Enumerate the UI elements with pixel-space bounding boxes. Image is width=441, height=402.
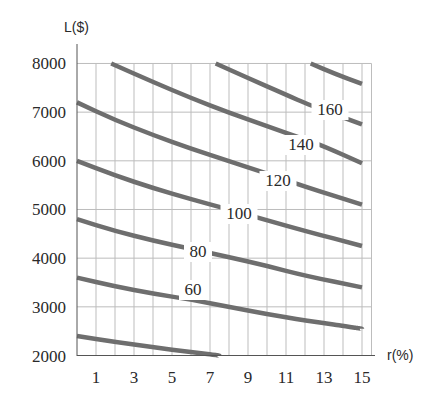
y-axis-ticks: 2000300040005000600070008000	[32, 54, 66, 365]
x-tick-label: 15	[354, 368, 371, 387]
curve-180	[311, 63, 362, 83]
x-tick-label: 1	[92, 368, 101, 387]
y-tick-label: 4000	[32, 249, 66, 268]
x-tick-label: 3	[130, 368, 139, 387]
y-tick-label: 6000	[32, 152, 66, 171]
loan-chart: 6080100120140160 20003000400050006000700…	[0, 0, 441, 402]
y-tick-label: 2000	[32, 347, 66, 366]
x-tick-label: 5	[168, 368, 177, 387]
x-tick-label: 9	[244, 368, 253, 387]
y-axis-title: L($)	[64, 19, 89, 35]
curve-60	[77, 278, 362, 329]
y-tick-label: 5000	[32, 200, 66, 219]
x-tick-label: 11	[278, 368, 294, 387]
x-axis-ticks: 13579111315	[92, 368, 371, 387]
curve-labels: 6080100120140160	[179, 100, 349, 300]
curve-label-60: 60	[185, 280, 202, 299]
y-tick-label: 3000	[32, 298, 66, 317]
curve-80	[77, 219, 362, 287]
x-tick-label: 7	[206, 368, 215, 387]
x-axis-title: r(%)	[387, 347, 413, 363]
x-tick-label: 13	[316, 368, 333, 387]
curve-label-120: 120	[265, 171, 291, 190]
curve-label-100: 100	[226, 204, 252, 223]
curve-label-140: 140	[288, 135, 314, 154]
curve-label-80: 80	[190, 242, 207, 261]
y-tick-label: 8000	[32, 54, 66, 73]
curve-label-160: 160	[317, 100, 343, 119]
curve-40	[77, 336, 220, 355]
y-tick-label: 7000	[32, 103, 66, 122]
